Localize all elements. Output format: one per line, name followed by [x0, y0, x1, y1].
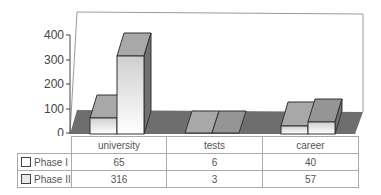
table-cell: 3 [167, 171, 263, 188]
bar-career-phase-2[interactable] [308, 99, 342, 134]
chart-plot-area: 400 300 200 100 0 [0, 0, 381, 136]
legend-label: Phase II [34, 174, 71, 185]
bar-university-phase-2[interactable] [117, 33, 151, 134]
data-table-row-phase-1: Phase I 65 6 40 [18, 154, 359, 171]
table-cell: 57 [263, 171, 359, 188]
data-table: university tests career Phase I 65 6 40 … [17, 136, 359, 188]
legend-label: Phase I [34, 157, 68, 168]
table-cell: 6 [167, 154, 263, 171]
y-tick-label: 0 [57, 126, 64, 136]
table-cell: 316 [72, 171, 167, 188]
category-label-university: university [72, 137, 167, 154]
data-table-row-phase-2: Phase II 316 3 57 [18, 171, 359, 188]
y-axis: 400 300 200 100 0 [44, 28, 70, 136]
category-label-tests: tests [167, 137, 263, 154]
legend-swatch-icon [21, 174, 31, 184]
legend-entry-phase-1[interactable]: Phase I [18, 154, 72, 171]
data-table-header-row: university tests career [18, 137, 359, 154]
y-tick-label: 400 [44, 28, 64, 42]
category-label-career: career [263, 137, 359, 154]
table-cell: 65 [72, 154, 167, 171]
legend-swatch-icon [21, 157, 31, 167]
y-tick-label: 300 [44, 53, 64, 67]
table-cell: 40 [263, 154, 359, 171]
legend-entry-phase-2[interactable]: Phase II [18, 171, 72, 188]
y-tick-label: 100 [44, 102, 64, 116]
y-tick-label: 200 [44, 77, 64, 91]
